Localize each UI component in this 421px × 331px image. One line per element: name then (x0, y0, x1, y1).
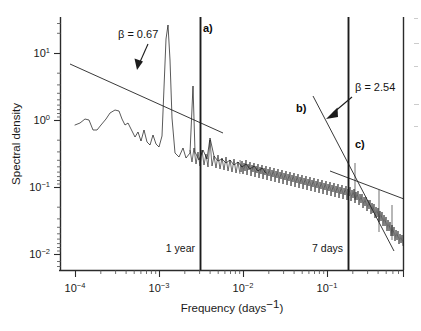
figure-background (0, 0, 421, 331)
feature-marker-b: b) (296, 102, 307, 114)
annotation-beta-low-text: β = 0.67 (118, 28, 158, 40)
reference-label-one-year: 1 year (166, 242, 196, 254)
y-axis-title: Spectral density (10, 103, 22, 185)
spectral-density-figure: 10−4 10−3 10−2 10−1 (0, 0, 421, 331)
chart-svg: 10−4 10−3 10−2 10−1 (0, 0, 421, 331)
reference-label-seven-days: 7 days (312, 242, 343, 254)
annotation-beta-high-text: β = 2.54 (355, 81, 395, 93)
feature-marker-c: c) (355, 138, 365, 150)
feature-marker-a: a) (203, 22, 213, 34)
